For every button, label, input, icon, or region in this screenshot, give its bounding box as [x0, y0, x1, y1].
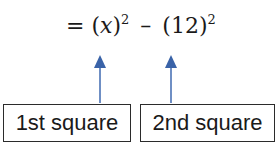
minus-sign: – — [140, 13, 151, 38]
arrow-up-icon — [93, 55, 107, 103]
first-square-label: 1st square — [3, 104, 131, 142]
expression: = (x)2 – (12)2 — [66, 12, 216, 40]
first-term: (x)2 — [91, 13, 129, 38]
second-term: (12)2 — [162, 13, 215, 38]
second-exponent: 2 — [208, 12, 216, 27]
arrow-up-icon — [164, 55, 178, 103]
equals-sign: = — [66, 13, 84, 38]
second-square-label: 2nd square — [140, 104, 275, 142]
first-exponent: 2 — [121, 12, 129, 27]
